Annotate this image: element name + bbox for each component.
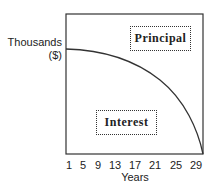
y-axis-label-line1: Thousands <box>8 36 62 49</box>
x-tick: 13 <box>109 159 121 171</box>
principal-text: Principal <box>135 31 187 46</box>
x-axis-label: Years <box>121 171 149 183</box>
y-axis-label-line2: ($) <box>8 49 62 62</box>
x-tick: 25 <box>170 159 182 171</box>
interest-text: Interest <box>105 115 149 130</box>
x-tick: 29 <box>190 159 202 171</box>
x-tick: 21 <box>149 159 161 171</box>
interest-label: Interest <box>96 110 157 135</box>
x-tick: 5 <box>80 159 86 171</box>
x-tick: 1 <box>66 159 72 171</box>
x-tick: 9 <box>95 159 101 171</box>
x-tick: 17 <box>129 159 141 171</box>
principal-label: Principal <box>130 26 191 51</box>
y-axis-label: Thousands ($) <box>8 36 62 62</box>
interest-curve <box>66 49 203 154</box>
